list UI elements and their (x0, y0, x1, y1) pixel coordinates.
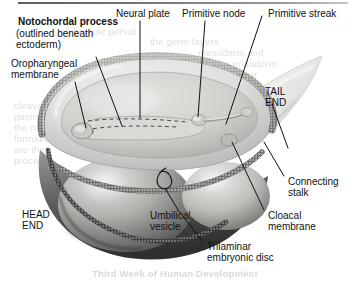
label-connecting-stalk: Connecting stalk (288, 176, 339, 199)
cloacal-membrane-shape (221, 134, 237, 146)
label-primitive-node: Primitive node (182, 8, 245, 19)
label-primitive-streak: Primitive streak (268, 8, 336, 19)
trilaminar-disc-line-2: embryonic disc (207, 252, 274, 263)
notochordal-sub-line-1: (outlined beneath (16, 28, 93, 39)
leader-connecting-stalk (264, 142, 284, 176)
trilaminar-disc-line-1: Trilaminar (207, 241, 251, 252)
label-trilaminar-embryonic-disc: Trilaminar embryonic disc (207, 241, 274, 264)
label-oropharyngeal-membrane: Oropharyngeal membrane (11, 58, 77, 81)
notochordal-process-title: Notochordal process (18, 16, 118, 27)
embryo-figure: cleavagegastrulationthe notochordformati… (0, 0, 354, 281)
oropharyngeal-line-1: Oropharyngeal (11, 58, 77, 69)
label-head-end: HEAD END (22, 209, 50, 232)
label-umbilical-vesicle: Umbilical vesicle (150, 210, 191, 233)
label-notochordal-process: Notochordal process (18, 16, 118, 27)
primitive-streak-text: Primitive streak (268, 8, 336, 19)
label-cloacal-membrane: Cloacal membrane (268, 210, 316, 233)
tail-end-line-1: TAIL (265, 86, 285, 97)
label-notochordal-process-sub: (outlined beneath ectoderm) (16, 28, 93, 51)
label-tail-end: TAIL END (265, 86, 286, 109)
oropharyngeal-membrane-shape (72, 123, 93, 139)
oropharyngeal-line-2: membrane (11, 69, 59, 80)
umbilical-vesicle-line-1: Umbilical (150, 210, 191, 221)
umbilical-vesicle-line-2: vesicle (150, 221, 181, 232)
neural-plate-text: Neural plate (116, 8, 170, 19)
head-end-line-2: END (22, 220, 43, 231)
tail-end-line-2: END (265, 97, 286, 108)
connecting-stalk-line-2: stalk (288, 187, 309, 198)
label-neural-plate: Neural plate (116, 8, 170, 19)
primitive-node-text: Primitive node (182, 8, 245, 19)
connecting-stalk-line-1: Connecting (288, 176, 339, 187)
primitive-node-shape (192, 115, 207, 126)
head-end-line-1: HEAD (22, 209, 50, 220)
cloacal-membrane-line-1: Cloacal (268, 210, 301, 221)
cloacal-membrane-line-2: membrane (268, 221, 316, 232)
notochordal-sub-line-2: ectoderm) (16, 39, 61, 50)
